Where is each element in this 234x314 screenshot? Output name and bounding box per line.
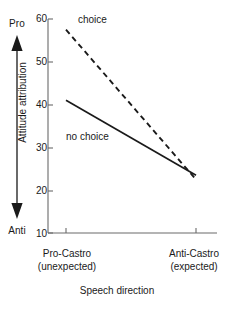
x-category-0-line2: (unexpected)	[19, 260, 115, 273]
x-category-1-line2: (expected)	[146, 260, 234, 273]
x-category-1-line1: Anti-Castro	[169, 248, 219, 259]
y-axis-ticks	[48, 19, 53, 233]
x-category-0-line1: Pro-Castro	[43, 248, 91, 259]
x-category-label-0: Pro-Castro (unexpected)	[19, 247, 115, 273]
x-axis-title: Speech direction	[0, 285, 234, 296]
x-category-label-1: Anti-Castro (expected)	[146, 247, 234, 273]
series-label-choice: choice	[78, 14, 107, 25]
chart-figure: Pro Attitude attribution Anti 60 50 40 3…	[0, 0, 234, 314]
series-line-choice	[66, 30, 196, 180]
x-axis-ticks	[66, 228, 196, 233]
series-label-no-choice: no choice	[66, 131, 109, 142]
